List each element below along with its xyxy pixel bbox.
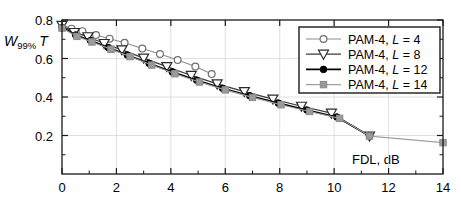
legend-label-3: PAM-4, L = 14 bbox=[348, 78, 427, 92]
legend-label-1: PAM-4, L = 8 bbox=[348, 48, 420, 62]
marker-0 bbox=[157, 51, 164, 58]
marker-3 bbox=[196, 79, 202, 85]
marker-3 bbox=[74, 33, 80, 39]
marker-3 bbox=[172, 71, 178, 77]
x-tick-label: 14 bbox=[436, 180, 450, 195]
marker-0 bbox=[93, 32, 100, 39]
marker-0 bbox=[192, 63, 199, 70]
x-tick-label: 0 bbox=[58, 180, 65, 195]
marker-3 bbox=[306, 108, 312, 114]
chart-figure: W99%T FDL, dB 024681012140.20.40.60.8PAM… bbox=[0, 0, 461, 219]
marker-3 bbox=[278, 102, 284, 108]
marker-0 bbox=[139, 45, 146, 52]
x-tick-label: 6 bbox=[222, 180, 229, 195]
y-tick-label: 0.8 bbox=[35, 13, 53, 28]
marker-3 bbox=[336, 115, 342, 121]
legend-marker-3 bbox=[320, 81, 326, 87]
marker-3 bbox=[108, 46, 114, 52]
legend-marker-0 bbox=[320, 36, 327, 43]
y-tick-label: 0.6 bbox=[35, 52, 53, 67]
marker-0 bbox=[174, 57, 181, 64]
marker-3 bbox=[366, 133, 372, 139]
x-tick-label: 2 bbox=[113, 180, 120, 195]
legend-label-0: PAM-4, L = 4 bbox=[348, 33, 420, 47]
marker-3 bbox=[89, 39, 95, 45]
y-tick-label: 0.4 bbox=[35, 90, 53, 105]
marker-0 bbox=[121, 39, 128, 46]
legend-marker-2 bbox=[320, 66, 327, 73]
y-tick-label: 0.2 bbox=[35, 129, 53, 144]
legend-label-2: PAM-4, L = 12 bbox=[348, 63, 427, 77]
x-tick-label: 10 bbox=[327, 180, 341, 195]
marker-3 bbox=[249, 94, 255, 100]
x-tick-label: 4 bbox=[167, 180, 174, 195]
marker-0 bbox=[208, 71, 215, 78]
x-tick-label: 12 bbox=[381, 180, 395, 195]
plot-canvas: 024681012140.20.40.60.8PAM-4, L = 4PAM-4… bbox=[0, 0, 461, 219]
marker-3 bbox=[127, 53, 133, 59]
marker-3 bbox=[149, 62, 155, 68]
marker-3 bbox=[222, 87, 228, 93]
x-tick-label: 8 bbox=[276, 180, 283, 195]
